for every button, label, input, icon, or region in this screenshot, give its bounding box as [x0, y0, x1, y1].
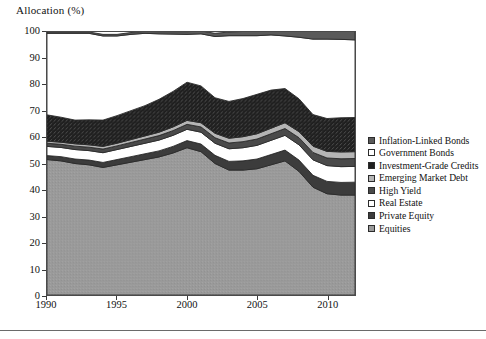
legend-item-real-estate[interactable]: Real Estate — [368, 197, 478, 210]
footer-rule — [0, 330, 486, 331]
legend-item-equities[interactable]: Equities — [368, 222, 478, 235]
chart-figure: Allocation (%) 01020304050607080901 — [0, 0, 486, 339]
legend-item-label: Real Estate — [379, 198, 422, 208]
y-tick-label: 0 — [0, 291, 40, 302]
legend-swatch-icon — [368, 225, 375, 232]
plot-area — [46, 31, 356, 296]
legend-item-inflation-linked-bonds[interactable]: Inflation-Linked Bonds — [368, 134, 478, 147]
legend-swatch-icon — [368, 212, 375, 219]
legend-item-high-yield[interactable]: High Yield — [368, 184, 478, 197]
x-tick-mark — [328, 296, 329, 300]
y-axis-title: Allocation (%) — [16, 4, 84, 16]
legend-item-emerging-market-debt[interactable]: Emerging Market Debt — [368, 172, 478, 185]
legend-item-label: Equities — [379, 224, 410, 234]
legend-item-label: Investment-Grade Credits — [379, 161, 478, 171]
legend-swatch-icon — [368, 200, 375, 207]
y-tick-label: 60 — [0, 132, 40, 143]
y-tick-mark — [42, 137, 46, 138]
legend-item-label: High Yield — [379, 186, 421, 196]
y-tick-mark — [42, 190, 46, 191]
legend-item-label: Government Bonds — [379, 148, 454, 158]
x-tick-mark — [187, 296, 188, 300]
x-tick-label: 2000 — [176, 300, 197, 311]
y-tick-label: 50 — [0, 158, 40, 169]
legend-swatch-icon — [368, 149, 375, 156]
y-tick-mark — [42, 270, 46, 271]
y-tick-mark — [42, 217, 46, 218]
y-tick-mark — [42, 164, 46, 165]
legend-swatch-icon — [368, 175, 375, 182]
y-tick-label: 10 — [0, 264, 40, 275]
legend-item-label: Emerging Market Debt — [379, 173, 468, 183]
x-tick-mark — [116, 296, 117, 300]
y-tick-mark — [42, 84, 46, 85]
y-tick-mark — [42, 111, 46, 112]
y-tick-label: 40 — [0, 185, 40, 196]
y-tick-mark — [42, 58, 46, 59]
x-tick-mark — [257, 296, 258, 300]
y-tick-label: 100 — [0, 26, 40, 37]
legend-item-label: Private Equity — [379, 211, 434, 221]
y-tick-label: 80 — [0, 79, 40, 90]
legend-item-investment-grade-credits[interactable]: Investment-Grade Credits — [368, 159, 478, 172]
y-tick-mark — [42, 243, 46, 244]
legend-item-label: Inflation-Linked Bonds — [379, 136, 469, 146]
y-tick-label: 70 — [0, 105, 40, 116]
legend-swatch-icon — [368, 137, 375, 144]
x-tick-label: 2005 — [247, 300, 268, 311]
legend-swatch-icon — [368, 187, 375, 194]
legend-item-private-equity[interactable]: Private Equity — [368, 210, 478, 223]
x-tick-mark — [46, 296, 47, 300]
y-tick-label: 90 — [0, 52, 40, 63]
stacked-area-series — [47, 32, 355, 295]
y-tick-label: 20 — [0, 238, 40, 249]
x-tick-label: 1990 — [36, 300, 57, 311]
legend-swatch-icon — [368, 162, 375, 169]
y-tick-label: 30 — [0, 211, 40, 222]
x-tick-label: 2010 — [317, 300, 338, 311]
y-tick-mark — [42, 31, 46, 32]
x-tick-label: 1995 — [106, 300, 127, 311]
legend-item-government-bonds[interactable]: Government Bonds — [368, 147, 478, 160]
chart-legend: Inflation-Linked BondsGovernment BondsIn… — [368, 134, 478, 235]
